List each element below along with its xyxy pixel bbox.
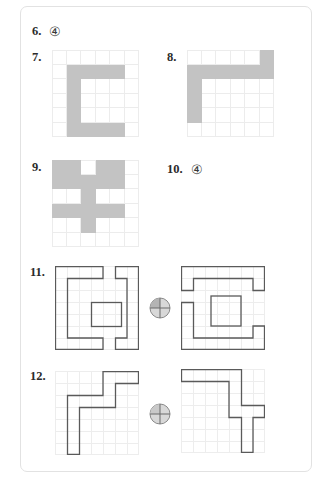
grid-cell-empty [216, 123, 231, 138]
grid-cell-empty [125, 233, 140, 248]
grid-cell-empty [110, 218, 125, 233]
grid-cell-filled [96, 65, 111, 80]
grid-cell-empty [52, 233, 67, 248]
grid-cell-filled [81, 204, 96, 219]
grid-cell-empty [202, 50, 217, 65]
grid-cell-filled [187, 79, 202, 94]
grid-cell-filled [110, 175, 125, 190]
grid-cell-filled [67, 65, 82, 80]
grid-cell-empty [125, 108, 140, 123]
grid-cell-empty [187, 50, 202, 65]
grid-cell-empty [81, 233, 96, 248]
grid-cell-filled [67, 160, 82, 175]
grid-cell-filled [81, 175, 96, 190]
grid-cell-empty [202, 108, 217, 123]
grid-cell-filled [187, 94, 202, 109]
grid-cell-empty [245, 94, 260, 109]
grid-cell-empty [110, 94, 125, 109]
grid-cell-filled [260, 50, 275, 65]
grid-cell-empty [81, 108, 96, 123]
problem-11-rotation-icon [149, 297, 171, 319]
grid-cell-empty [52, 108, 67, 123]
problem-12-rotation-icon [149, 403, 171, 425]
worksheet-page: 6. ④ 7. 8. 9. 10. ④ 11. [20, 6, 312, 472]
grid-cell-empty [260, 94, 275, 109]
grid-cell-filled [67, 204, 82, 219]
grid-cell-empty [67, 218, 82, 233]
grid-cell-filled [110, 65, 125, 80]
problem-7-number: 7. [32, 50, 41, 65]
grid-cell-empty [110, 50, 125, 65]
grid-cell-empty [125, 50, 140, 65]
grid-cell-filled [67, 175, 82, 190]
grid-cell-filled [110, 160, 125, 175]
grid-cell-empty [260, 108, 275, 123]
grid-cell-filled [81, 65, 96, 80]
problem-7-grid [52, 50, 139, 137]
grid-cell-filled [81, 189, 96, 204]
grid-cell-filled [81, 218, 96, 233]
problem-11-left-shape [56, 267, 139, 350]
grid-cell-empty [67, 189, 82, 204]
problem-11-number: 11. [30, 265, 45, 280]
grid-cell-empty [81, 160, 96, 175]
grid-cell-empty [260, 79, 275, 94]
grid-cell-empty [231, 79, 246, 94]
grid-cell-empty [81, 50, 96, 65]
grid-cell-empty [52, 123, 67, 138]
grid-cell-empty [231, 123, 246, 138]
grid-cell-filled [96, 204, 111, 219]
grid-cell-empty [245, 123, 260, 138]
grid-cell-filled [202, 65, 217, 80]
grid-cell-empty [110, 189, 125, 204]
grid-cell-empty [202, 94, 217, 109]
grid-cell-empty [125, 218, 140, 233]
grid-cell-empty [125, 94, 140, 109]
grid-cell-filled [110, 123, 125, 138]
grid-cell-filled [245, 65, 260, 80]
grid-cell-filled [81, 123, 96, 138]
grid-cell-empty [52, 94, 67, 109]
grid-cell-empty [96, 79, 111, 94]
grid-cell-empty [231, 50, 246, 65]
grid-cell-empty [52, 218, 67, 233]
grid-cell-filled [67, 79, 82, 94]
grid-cell-empty [125, 79, 140, 94]
problem-11-left-grid [55, 266, 139, 350]
grid-cell-empty [187, 123, 202, 138]
grid-cell-empty [110, 108, 125, 123]
grid-cell-empty [96, 218, 111, 233]
problem-9-number: 9. [32, 160, 41, 175]
grid-cell-empty [96, 50, 111, 65]
grid-cell-empty [96, 233, 111, 248]
problem-11-right-grid [181, 266, 265, 350]
problem-6-number: 6. [32, 24, 41, 39]
grid-cell-empty [96, 108, 111, 123]
grid-cell-empty [125, 189, 140, 204]
grid-cell-filled [110, 204, 125, 219]
grid-cell-empty [96, 189, 111, 204]
problem-9-grid [52, 160, 139, 247]
grid-cell-filled [231, 65, 246, 80]
grid-cell-empty [245, 50, 260, 65]
grid-cell-empty [52, 189, 67, 204]
grid-cell-empty [110, 79, 125, 94]
grid-cell-empty [96, 94, 111, 109]
grid-cell-filled [187, 65, 202, 80]
grid-cell-empty [216, 79, 231, 94]
grid-cell-filled [67, 108, 82, 123]
grid-cell-empty [52, 79, 67, 94]
grid-cell-empty [202, 123, 217, 138]
grid-cell-filled [52, 175, 67, 190]
grid-cell-empty [216, 94, 231, 109]
grid-cell-empty [125, 65, 140, 80]
grid-cell-empty [260, 123, 275, 138]
grid-cell-filled [96, 123, 111, 138]
grid-cell-empty [245, 79, 260, 94]
grid-cell-empty [110, 233, 125, 248]
grid-cell-empty [125, 123, 140, 138]
grid-cell-filled [67, 123, 82, 138]
problem-12-right-grid [181, 369, 265, 453]
grid-cell-filled [260, 65, 275, 80]
grid-cell-filled [187, 108, 202, 123]
